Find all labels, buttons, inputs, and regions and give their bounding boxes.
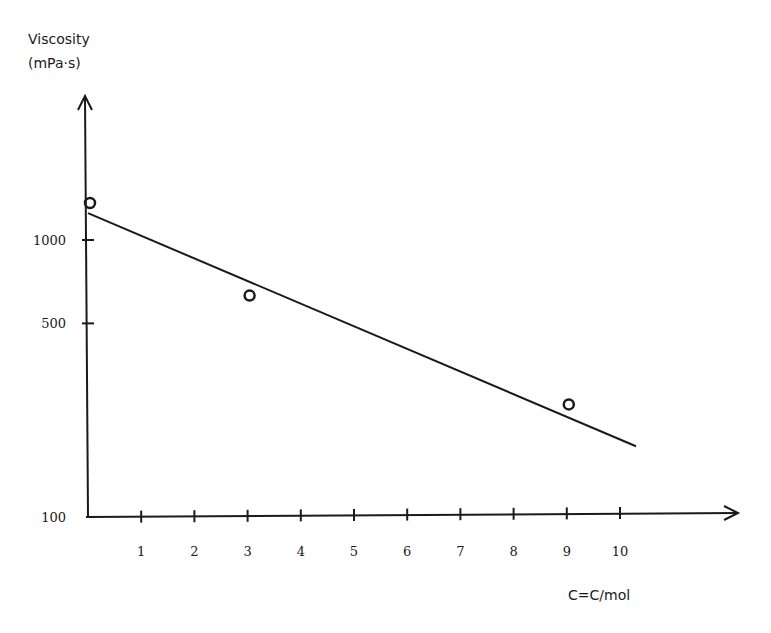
x-tick-label: 3 (243, 544, 251, 559)
x-tick-label: 4 (297, 544, 305, 559)
x-tick-label: 5 (350, 544, 358, 559)
x-tick-label: 7 (456, 544, 464, 559)
y-ticks: 1005001000 (33, 233, 94, 525)
y-tick-label: 100 (41, 510, 66, 525)
x-tick-label: 6 (403, 544, 411, 559)
x-tick-label: 9 (563, 544, 571, 559)
x-axis-title: C=C/mol (568, 587, 630, 603)
y-tick-label: 1000 (33, 233, 66, 248)
trend-line (88, 213, 636, 446)
x-axis (86, 506, 738, 520)
x-tick-label: 2 (190, 544, 198, 559)
x-tick-label: 8 (509, 544, 517, 559)
y-axis-unit: (mPa·s) (28, 55, 81, 71)
viscosity-chart: Viscosity (mPa·s) 1005001000 12345678910… (0, 0, 771, 633)
y-tick-label: 500 (41, 316, 66, 331)
data-point-circle-icon (245, 291, 255, 301)
x-tick-label: 1 (137, 544, 145, 559)
y-axis (78, 96, 92, 517)
data-point-circle-icon (564, 399, 574, 409)
x-tick-label: 10 (612, 544, 629, 559)
data-points (85, 198, 574, 409)
y-axis-title: Viscosity (28, 31, 90, 47)
